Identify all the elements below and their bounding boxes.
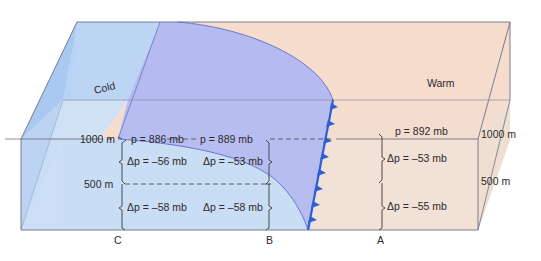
pressure-top-b: p = 889 mb (200, 133, 253, 145)
column-label-b: B (266, 234, 273, 246)
right-height-1000: 1000 m (481, 128, 516, 140)
dp-upper-b: Δp = –53 mb (203, 155, 263, 167)
warm-label: Warm (427, 77, 455, 89)
column-label-c: C (114, 234, 122, 246)
column-label-a: A (377, 234, 384, 246)
right-height-500: 500 m (481, 175, 510, 187)
dp-lower-a: Δp = –55 mb (387, 200, 447, 212)
cold-front-diagram: Cold Warm 1000 m 500 m 1000 m 500 m p = … (0, 0, 541, 261)
pressure-top-c: p = 886 mb (131, 133, 184, 145)
dp-lower-c: Δp = –58 mb (127, 201, 187, 213)
left-height-500: 500 m (84, 178, 113, 190)
dp-upper-a: Δp = –53 mb (387, 152, 447, 164)
pressure-top-a: p = 892 mb (395, 125, 448, 137)
dp-lower-b: Δp = –58 mb (203, 201, 263, 213)
dp-upper-c: Δp = –56 mb (127, 155, 187, 167)
left-height-1000: 1000 m (80, 133, 115, 145)
